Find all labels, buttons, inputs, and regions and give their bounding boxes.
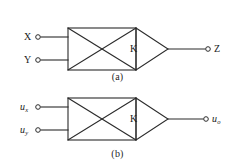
input-label-ux-subscript: x: [25, 106, 28, 113]
amplifier-triangle: [136, 28, 168, 70]
amplifier-triangle: [136, 98, 168, 140]
gain-label-b: K: [130, 114, 137, 124]
input-label-uy-subscript: y: [25, 129, 28, 136]
terminal-node-x: [36, 35, 41, 40]
input-label-y: Y: [24, 55, 31, 65]
input-label-x: X: [24, 32, 31, 42]
diagram-panel-a: X Y K Z (a): [0, 0, 235, 90]
caption-b: (b): [0, 148, 235, 159]
output-label-uo-subscript: o: [217, 118, 220, 125]
input-label-ux: ux: [20, 102, 28, 112]
terminal-node-uo: [204, 117, 209, 122]
figure-sheet: X Y K Z (a): [0, 0, 235, 165]
terminal-node-ux: [36, 105, 41, 110]
output-label-z: Z: [214, 44, 220, 54]
gain-label-a: K: [130, 44, 137, 54]
terminal-node-uy: [36, 128, 41, 133]
input-label-uy: uy: [20, 125, 28, 135]
terminal-node-y: [36, 58, 41, 63]
diagram-panel-b: ux uy K uo (b): [0, 88, 235, 165]
output-label-uo: uo: [212, 114, 220, 124]
caption-a: (a): [0, 71, 235, 82]
terminal-node-z: [206, 47, 211, 52]
